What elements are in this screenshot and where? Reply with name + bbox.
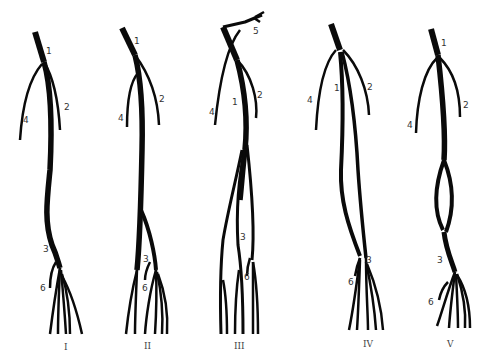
variant-3: 5 2 1 4 3 6 III [209,12,264,351]
label-2: 2 [159,94,165,104]
label-4: 4 [23,115,29,125]
variant-numeral: II [144,341,152,351]
label-3: 3 [43,244,49,254]
label-2: 2 [367,82,373,92]
label-3: 3 [437,255,443,265]
variant-numeral: I [64,342,68,352]
variant-numeral: III [234,341,245,351]
label-3: 3 [240,232,246,242]
label-1: 1 [46,46,52,56]
label-6: 6 [244,272,250,282]
label-1: 1 [134,36,140,46]
label-1: 1 [441,38,447,48]
variant-1: 1 2 4 3 6 I [20,32,82,352]
label-4: 4 [307,95,313,105]
variant-2: 1 2 4 3 6 II [118,28,167,351]
label-2: 2 [257,90,263,100]
variant-numeral: IV [363,339,374,349]
label-3: 3 [366,255,372,265]
variant-5: 1 2 4 3 6 V [407,29,470,349]
label-4: 4 [209,107,215,117]
label-4: 4 [118,113,124,123]
label-3: 3 [143,254,149,264]
label-1: 1 [232,97,238,107]
label-1: 1 [334,83,340,93]
label-6: 6 [348,277,354,287]
label-6: 6 [428,297,434,307]
label-2: 2 [64,102,70,112]
vessel-variants-diagram: 1 2 4 3 6 I 1 2 4 3 6 II [0,0,490,361]
label-2: 2 [463,100,469,110]
label-6: 6 [40,283,46,293]
label-4: 4 [407,120,413,130]
variant-4: 1 2 4 3 6 IV [307,24,383,349]
label-6: 6 [142,283,148,293]
label-5: 5 [253,26,259,36]
variant-numeral: V [446,339,454,349]
